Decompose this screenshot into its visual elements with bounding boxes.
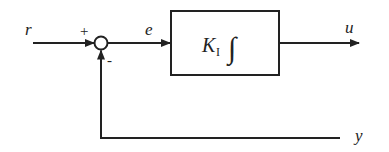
integral-controller-diagram: r + - e K I ∫ u y — [0, 0, 389, 152]
integral-symbol: ∫ — [226, 31, 238, 67]
integral-gain-block — [171, 11, 279, 75]
feedback-signal-label: y — [353, 126, 363, 145]
error-signal-label: e — [145, 20, 153, 39]
gain-subscript: I — [216, 45, 220, 59]
gain-symbol: K — [201, 34, 217, 56]
output-signal-label: u — [345, 18, 354, 37]
minus-sign: - — [107, 52, 112, 68]
summing-junction — [95, 37, 108, 50]
plus-sign: + — [80, 23, 88, 39]
reference-signal-label: r — [25, 20, 32, 39]
